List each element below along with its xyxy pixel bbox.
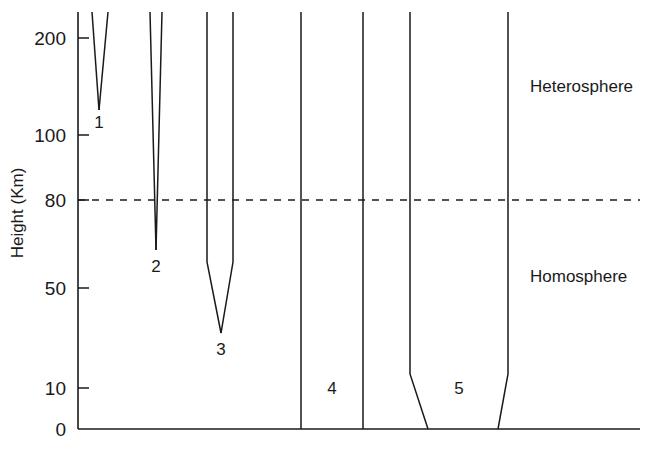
curve-label-3: 3 — [201, 341, 241, 358]
curve-2-right-edge — [156, 12, 162, 250]
y-tick-label-0: 0 — [0, 420, 66, 439]
axis-lines — [78, 12, 640, 429]
curve-5-right-edge — [498, 12, 508, 429]
curve-label-5: 5 — [439, 380, 479, 397]
y-tick-label-100: 100 — [0, 126, 66, 145]
tick-marks — [78, 38, 89, 388]
curve-label-2: 2 — [136, 258, 176, 275]
y-tick-label-200: 200 — [0, 29, 66, 48]
curve-1-right-edge — [99, 12, 108, 110]
curve-3-right-edge — [221, 12, 233, 333]
region-label-homosphere: Homosphere — [530, 268, 627, 285]
y-axis-title: Height (Km) — [8, 148, 28, 278]
y-tick-label-10: 10 — [0, 379, 66, 398]
curve-3-left-edge — [207, 12, 221, 333]
y-tick-label-50: 50 — [0, 279, 66, 298]
atmospheric-composition-chart: 2001008050100 12345 HeterosphereHomosphe… — [0, 0, 665, 461]
curve-label-4: 4 — [312, 380, 352, 397]
region-label-heterosphere: Heterosphere — [530, 78, 633, 95]
curve-label-1: 1 — [79, 114, 119, 131]
curve-5-left-edge — [410, 12, 428, 429]
curve-paths — [92, 12, 508, 429]
curve-2-left-edge — [150, 12, 156, 250]
curve-1-left-edge — [92, 12, 99, 110]
